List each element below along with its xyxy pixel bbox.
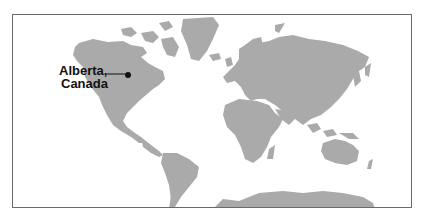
world-map-frame: Alberta, Canada: [12, 14, 412, 208]
location-dot-icon: [125, 72, 131, 78]
location-marker: [13, 15, 412, 208]
